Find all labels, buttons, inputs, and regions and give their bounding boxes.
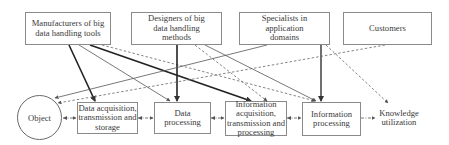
node-info-processing: Information processing xyxy=(302,102,361,136)
node-manufacturers: Manufacturers of big data handling tools xyxy=(25,12,111,45)
node-specialists: Specialists in application domains xyxy=(239,12,330,45)
node-info-acquisition: Information acquisition, transmission an… xyxy=(225,101,287,136)
node-object-label: Object xyxy=(28,113,51,123)
node-object: Object xyxy=(17,95,62,140)
edge-designers-info-acquisition xyxy=(195,45,267,101)
node-data-processing-label: Data processing xyxy=(154,109,211,128)
flow-back-arrow-1 xyxy=(63,116,67,120)
node-customers-label: Customers xyxy=(369,24,406,34)
node-knowledge: Knowledge utilization xyxy=(374,106,424,130)
node-info-processing-label: Information processing xyxy=(303,110,360,129)
edge-designers-info-processing xyxy=(205,45,316,101)
node-specialists-label: Specialists in application domains xyxy=(240,14,329,43)
node-info-acquisition-label: Information acquisition, transmission an… xyxy=(226,100,286,138)
edge-manufacturers-data-acquisition xyxy=(69,45,95,101)
flow-back-arrow-4 xyxy=(287,116,291,120)
node-data-processing: Data processing xyxy=(154,102,211,134)
node-data-acquisition-label: Data acquisition, transmission and stora… xyxy=(78,104,137,133)
node-manufacturers-label: Manufacturers of big data handling tools xyxy=(26,19,110,38)
flow-back-arrow-2 xyxy=(138,116,142,120)
node-customers: Customers xyxy=(343,12,432,45)
edge-manufacturers-info-processing xyxy=(102,45,315,101)
node-designers-label: Designers of big data handling methods xyxy=(132,14,221,43)
edge-manufacturers-info-acquisition xyxy=(90,45,251,101)
flow-back-arrow-3 xyxy=(211,116,215,120)
node-knowledge-label: Knowledge utilization xyxy=(374,109,424,128)
node-data-acquisition: Data acquisition, transmission and stora… xyxy=(77,102,138,134)
edge-specialists-object xyxy=(55,45,267,98)
node-designers: Designers of big data handling methods xyxy=(131,12,222,45)
